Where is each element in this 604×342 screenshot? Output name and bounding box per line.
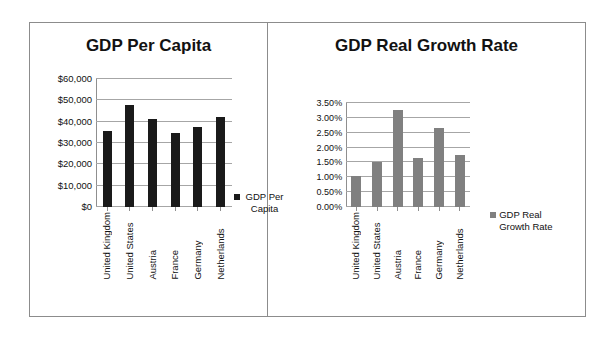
bar-slot — [119, 79, 142, 207]
x-tick-mark — [439, 207, 440, 211]
bar-slot — [96, 79, 119, 207]
bar-slot — [164, 79, 187, 207]
x-tick-slot — [367, 207, 388, 211]
x-tick-slot — [346, 207, 367, 211]
chart-title-gdp-per-capita: GDP Per Capita — [30, 35, 267, 56]
category-label: United States — [372, 212, 382, 280]
bar-group — [96, 79, 232, 207]
y-axis-tick-label: $50,000 — [58, 95, 92, 105]
bar — [148, 119, 157, 207]
category-label: Netherlands — [455, 212, 465, 280]
category-label: Netherlands — [216, 212, 226, 280]
y-axis-tick-label: 0.50% — [317, 187, 343, 197]
x-tick-mark — [459, 207, 460, 211]
y-axis-tick-label: 0.00% — [317, 202, 343, 212]
category-label-slot: Netherlands — [449, 212, 470, 280]
gridline — [96, 163, 232, 164]
x-tick-mark — [418, 207, 419, 211]
y-axis-tick-label: $60,000 — [58, 74, 92, 84]
category-label: United States — [125, 212, 135, 280]
legend-swatch-icon — [490, 212, 496, 218]
gridline — [346, 161, 470, 162]
x-tick-mark — [356, 207, 357, 211]
chart-panel-gdp-real-growth-rate: GDP Real Growth Rate United KingdomUnite… — [268, 23, 585, 316]
y-axis-tick-label: 3.50% — [317, 98, 343, 108]
gridline — [346, 117, 470, 118]
legend-gdp-real-growth-rate: GDP Real Growth Rate — [490, 209, 560, 233]
bar-slot — [141, 79, 164, 207]
bar — [455, 155, 465, 207]
category-label-slot: United States — [119, 212, 142, 280]
chart-title-gdp-real-growth-rate: GDP Real Growth Rate — [268, 35, 585, 56]
bar — [351, 176, 361, 207]
charts-frame: GDP Per Capita United KingdomUnited Stat… — [29, 22, 586, 317]
gridline — [96, 142, 232, 143]
category-label-slot: France — [408, 212, 429, 280]
x-tick-slot — [408, 207, 429, 211]
x-tick-slot — [141, 207, 164, 211]
category-label-slot: Austria — [141, 212, 164, 280]
x-axis-category-labels: United KingdomUnited StatesAustriaFrance… — [346, 212, 470, 280]
x-tick-slot — [429, 207, 450, 211]
category-label-slot: Germany — [429, 212, 450, 280]
gridline — [96, 185, 232, 186]
x-tick-slot — [209, 207, 232, 211]
y-axis-tick-label: $30,000 — [58, 138, 92, 148]
category-label-slot: United Kingdom — [96, 212, 119, 280]
category-label: Austria — [393, 212, 403, 280]
gridline — [346, 102, 470, 103]
x-tick-slot — [96, 207, 119, 211]
x-tick-slot — [119, 207, 142, 211]
category-label: France — [413, 212, 423, 280]
y-axis-tick-label: 1.00% — [317, 172, 343, 182]
x-tick-mark — [152, 207, 153, 211]
category-label-slot: Germany — [187, 212, 210, 280]
x-tick-mark — [107, 207, 108, 211]
gridline — [346, 176, 470, 177]
gridline — [96, 206, 232, 207]
gridline — [96, 78, 232, 79]
category-label: Germany — [434, 212, 444, 280]
bar — [372, 162, 382, 207]
x-tick-slot — [187, 207, 210, 211]
y-axis-tick-label: $40,000 — [58, 117, 92, 127]
category-label: Austria — [148, 212, 158, 280]
bar-slot — [209, 79, 232, 207]
y-axis-tick-label: 2.50% — [317, 128, 343, 138]
bar — [413, 158, 423, 207]
x-tick-mark — [197, 207, 198, 211]
gridline — [346, 191, 470, 192]
x-tick-mark — [129, 207, 130, 211]
x-tick-slot — [164, 207, 187, 211]
plot-area-gdp-real-growth-rate: United KingdomUnited StatesAustriaFrance… — [346, 103, 470, 207]
bar-slot — [187, 79, 210, 207]
y-axis-tick-label: 2.00% — [317, 143, 343, 153]
gridline — [346, 147, 470, 148]
gridline — [346, 206, 470, 207]
y-axis-tick-label: $20,000 — [58, 159, 92, 169]
category-label-slot: Austria — [387, 212, 408, 280]
category-label: France — [170, 212, 180, 280]
x-axis-category-labels: United KingdomUnited StatesAustriaFrance… — [96, 212, 232, 280]
category-label-slot: Netherlands — [209, 212, 232, 280]
category-label-slot: France — [164, 212, 187, 280]
x-tick-mark — [377, 207, 378, 211]
category-label: United Kingdom — [102, 212, 112, 280]
category-label: United Kingdom — [351, 212, 361, 280]
bar — [103, 131, 112, 207]
bar — [125, 105, 134, 207]
category-label-slot: United Kingdom — [346, 212, 367, 280]
chart-panel-gdp-per-capita: GDP Per Capita United KingdomUnited Stat… — [30, 23, 268, 316]
category-label-slot: United States — [367, 212, 388, 280]
bar — [216, 117, 225, 207]
x-tick-mark — [397, 207, 398, 211]
y-axis-tick-label: 3.00% — [317, 113, 343, 123]
x-tick-mark — [220, 207, 221, 211]
x-tick-slot — [449, 207, 470, 211]
category-label: Germany — [193, 212, 203, 280]
x-tick-slot — [387, 207, 408, 211]
y-axis-tick-label: $10,000 — [58, 181, 92, 191]
x-axis-ticks — [346, 207, 470, 211]
bar — [393, 110, 403, 207]
gridline — [96, 121, 232, 122]
